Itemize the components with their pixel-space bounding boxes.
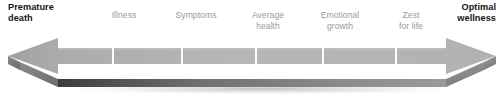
arrow-top-face <box>8 38 496 74</box>
label-emotional-growth: Emotional growth <box>300 10 380 31</box>
illness-wellness-continuum-figure: Premature death Illness Symptoms Average… <box>0 0 504 108</box>
label-symptoms: Symptoms <box>156 10 236 21</box>
label-illness: Illness <box>84 10 164 21</box>
label-average-health: Average health <box>228 10 308 31</box>
arrow-shaft-highlight <box>58 48 446 50</box>
continuum-arrow-svg <box>0 34 504 94</box>
continuum-arrow <box>0 34 504 94</box>
arrow-front-edge <box>58 79 446 87</box>
label-optimal-wellness: Optimal wellness <box>400 2 496 24</box>
